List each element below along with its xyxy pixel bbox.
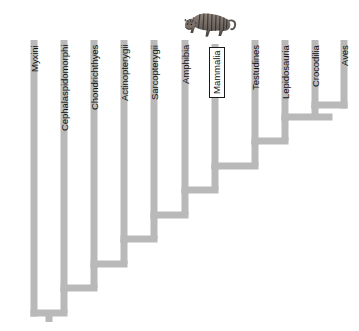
- taxon-label-aves: Aves: [340, 45, 350, 66]
- taxon-label-amphibia: Amphibia: [181, 45, 191, 84]
- taxon-label-actinopterygii: Actinopterygii: [120, 45, 130, 101]
- tiger-icon: [181, 6, 237, 42]
- taxon-label-myxini: Myxini: [30, 45, 40, 72]
- tiger-illustration: [181, 6, 237, 42]
- taxon-label-mammalia: Mammalia: [209, 47, 225, 98]
- taxon-label-chondrichthyes: Chondrichthyes: [90, 45, 100, 110]
- taxon-label-sarcopterygii: Sarcopterygii: [150, 45, 160, 100]
- cladogram-figure: MyxiniCephalaspidomorphiChondrichthyesAc…: [0, 0, 359, 331]
- taxon-label-crocodilia: Crocodilia: [311, 45, 321, 87]
- taxon-label-testudines: Testudines: [251, 45, 261, 90]
- taxon-label-cephalaspidomorphi: Cephalaspidomorphi: [60, 45, 70, 131]
- taxon-label-lepidosauria: Lepidosauria: [281, 45, 291, 99]
